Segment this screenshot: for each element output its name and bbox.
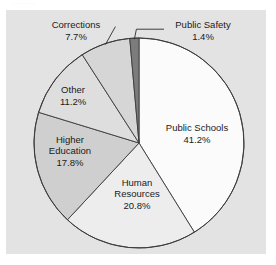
pie-chart-svg: Public Schools41.2%HumanResources20.8%Hi… [0,0,276,265]
slice-label: Corrections7.7% [52,19,101,42]
pie-chart-figure: · · ··· ··· ·· Public Schools41.2%HumanR… [0,0,276,265]
slice-label: Other11.2% [60,84,87,107]
slice-label: Public Safety1.4% [175,19,231,42]
